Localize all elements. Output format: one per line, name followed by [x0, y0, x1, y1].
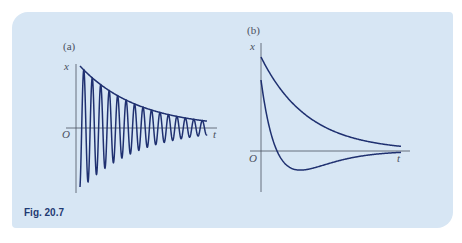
panel-b-overshoot-decay-curve	[261, 80, 401, 170]
panel-a-x-axis-label: t	[213, 128, 217, 140]
panel-a: (a) x O t	[62, 40, 217, 193]
figure-canvas: (a) x O t (b) x O t	[0, 0, 462, 243]
panel-a-oscillation-curve	[80, 70, 207, 187]
panel-b: (b) x O t	[247, 24, 410, 192]
panel-b-monotonic-decay-curve	[261, 57, 401, 146]
figure-caption: Fig. 20.7	[24, 207, 64, 218]
panel-b-x-axis-label: t	[397, 152, 401, 164]
panel-b-y-axis-label: x	[249, 40, 255, 52]
panel-b-label: (b)	[247, 24, 260, 37]
panel-b-origin-label: O	[249, 152, 257, 164]
panel-a-label: (a)	[63, 40, 76, 53]
panel-a-origin-label: O	[62, 128, 70, 140]
panel-a-y-axis-label: x	[63, 60, 69, 72]
